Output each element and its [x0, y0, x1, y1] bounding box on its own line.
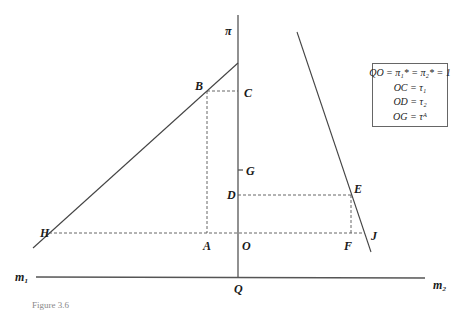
legend-box: QO = π₁* = π₂* = 1 OC = τ₁ OD = τ₂ OG = … [372, 63, 448, 127]
horizontal-axis [36, 277, 425, 278]
legend-line-od: OD = τ₂ [393, 96, 426, 108]
label-f: F [343, 239, 352, 253]
legend-line-oc: OC = τ₁ [394, 82, 427, 94]
label-e: E [353, 182, 362, 196]
label-m1: m₁ [15, 270, 29, 284]
diagram-canvas: π B C G D E H A O F J Q m₁ m₂ [0, 0, 467, 310]
label-m2: m₂ [433, 278, 447, 292]
label-j: J [370, 229, 378, 243]
label-a: A [202, 239, 211, 253]
label-d: D [226, 188, 236, 202]
label-o: O [242, 239, 251, 253]
label-pi: π [225, 24, 232, 38]
right-diagonal-line [297, 32, 371, 252]
label-c: C [244, 86, 253, 100]
label-q: Q [234, 282, 243, 296]
figure-caption: Figure 3.6 [32, 300, 69, 310]
label-b: B [194, 79, 203, 93]
legend-line-qo: QO = π₁* = π₂* = 1 [369, 67, 451, 79]
label-h: H [39, 226, 50, 240]
label-g: G [246, 164, 255, 178]
legend-line-og: OG = τᴬ [393, 111, 427, 123]
